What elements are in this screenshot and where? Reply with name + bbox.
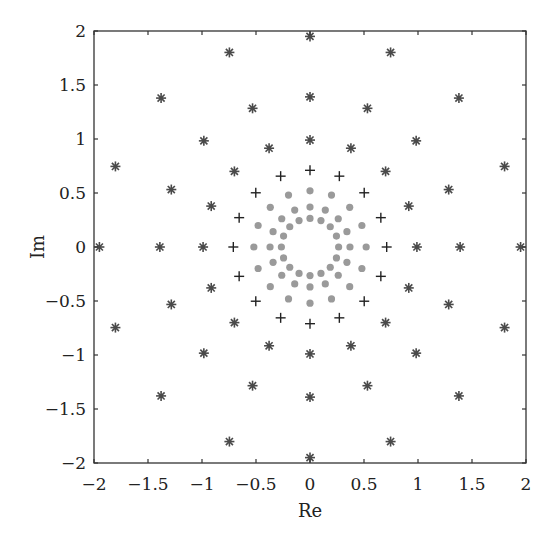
- x-tick-label: 0: [305, 474, 316, 494]
- dot-marker: [286, 223, 293, 230]
- x-tick-labels: −2−1.5−1−0.500.511.52: [81, 474, 531, 494]
- asterisk-marker: [411, 348, 421, 358]
- asterisk-marker: [166, 299, 176, 309]
- asterisk-marker: [305, 135, 315, 145]
- dot-marker: [306, 187, 313, 194]
- dot-marker: [343, 259, 350, 266]
- asterisk-marker: [224, 47, 234, 57]
- x-tick-label: 1.5: [458, 474, 485, 494]
- plus-marker: [334, 171, 344, 181]
- asterisk-marker: [305, 392, 315, 402]
- asterisk-marker: [206, 201, 216, 211]
- plus-marker: [234, 271, 244, 281]
- dot-marker: [266, 243, 273, 250]
- data-points: [94, 31, 525, 462]
- dot-marker: [317, 217, 324, 224]
- dot-marker: [333, 232, 340, 239]
- dot-marker: [269, 259, 276, 266]
- dot-marker: [328, 295, 335, 302]
- plus-marker: [305, 165, 315, 175]
- x-axis-label: Re: [298, 500, 322, 521]
- asterisk-marker: [386, 437, 396, 447]
- asterisk-marker: [455, 242, 465, 252]
- dot-marker: [295, 270, 302, 277]
- asterisk-marker: [198, 242, 208, 252]
- dot-marker: [285, 192, 292, 199]
- plus-marker: [276, 313, 286, 323]
- plus-marker: [376, 271, 386, 281]
- y-tick-label: 2: [75, 21, 86, 41]
- y-tick-label: −2: [61, 453, 86, 473]
- asterisk-marker: [206, 283, 216, 293]
- asterisk-marker: [248, 103, 258, 113]
- asterisk-marker: [248, 381, 258, 391]
- asterisk-marker: [156, 93, 166, 103]
- dot-marker: [250, 243, 257, 250]
- plus-marker: [376, 213, 386, 223]
- asterisk-marker: [305, 349, 315, 359]
- x-tick-label: −0.5: [235, 474, 276, 494]
- y-tick-label: 0: [75, 237, 86, 257]
- plus-marker: [251, 296, 261, 306]
- dot-marker: [322, 206, 329, 213]
- asterisk-marker: [264, 341, 274, 351]
- plus-marker: [251, 188, 261, 198]
- dot-marker: [280, 254, 287, 261]
- asterisk-marker: [500, 161, 510, 171]
- dot-marker: [278, 243, 285, 250]
- series-asterisk: [94, 31, 525, 462]
- asterisk-marker: [305, 92, 315, 102]
- y-tick-label: −0.5: [45, 291, 86, 311]
- asterisk-marker: [404, 201, 414, 211]
- x-tick-label: 2: [521, 474, 532, 494]
- asterisk-marker: [454, 391, 464, 401]
- asterisk-marker: [229, 166, 239, 176]
- dot-marker: [278, 215, 285, 222]
- dot-marker: [346, 204, 353, 211]
- dot-marker: [291, 206, 298, 213]
- dot-marker: [358, 222, 365, 229]
- dot-marker: [322, 280, 329, 287]
- asterisk-marker: [199, 136, 209, 146]
- dot-marker: [291, 280, 298, 287]
- pole-zero-scatter-chart: −2−1.5−1−0.500.511.52 −2−1.5−1−0.500.511…: [0, 0, 555, 545]
- y-tick-labels: −2−1.5−1−0.500.511.52: [45, 21, 86, 473]
- dot-marker: [335, 272, 342, 279]
- asterisk-marker: [444, 299, 454, 309]
- y-axis-label: Im: [27, 235, 48, 259]
- asterisk-marker: [264, 143, 274, 153]
- y-tick-label: −1: [61, 345, 86, 365]
- dot-marker: [286, 264, 293, 271]
- plus-marker: [234, 213, 244, 223]
- dot-marker: [255, 265, 262, 272]
- plus-marker: [382, 242, 392, 252]
- dot-marker: [358, 265, 365, 272]
- dot-marker: [333, 254, 340, 261]
- asterisk-marker: [346, 341, 356, 351]
- asterisk-marker: [199, 348, 209, 358]
- dot-marker: [343, 228, 350, 235]
- dot-marker: [306, 272, 313, 279]
- dot-marker: [335, 243, 342, 250]
- dot-marker: [327, 264, 334, 271]
- dot-marker: [267, 204, 274, 211]
- series-dot: [250, 187, 370, 307]
- asterisk-marker: [500, 323, 510, 333]
- dot-marker: [285, 295, 292, 302]
- asterisk-marker: [156, 391, 166, 401]
- asterisk-marker: [454, 93, 464, 103]
- dot-marker: [346, 243, 353, 250]
- dot-marker: [306, 203, 313, 210]
- dot-marker: [327, 223, 334, 230]
- x-tick-label: 0.5: [350, 474, 377, 494]
- asterisk-marker: [444, 185, 454, 195]
- dot-marker: [278, 272, 285, 279]
- dot-marker: [269, 228, 276, 235]
- y-tick-label: 0.5: [59, 183, 86, 203]
- asterisk-marker: [110, 161, 120, 171]
- plus-marker: [305, 319, 315, 329]
- dot-marker: [335, 215, 342, 222]
- plus-marker: [228, 242, 238, 252]
- x-tick-label: 1: [413, 474, 424, 494]
- dot-marker: [363, 243, 370, 250]
